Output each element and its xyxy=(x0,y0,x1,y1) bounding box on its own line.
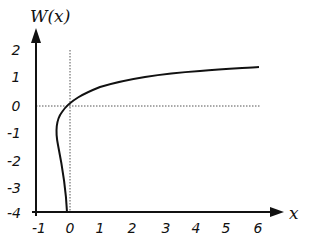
x-tick: 3 xyxy=(162,220,171,236)
x-tick: 0 xyxy=(66,220,75,236)
x-tick: -1 xyxy=(32,220,46,236)
y-tick: -3 xyxy=(7,180,21,196)
x-axis-label: x xyxy=(289,203,299,223)
y-tick: -1 xyxy=(7,125,21,141)
lambert-w-curve xyxy=(56,67,259,212)
x-tick: 2 xyxy=(128,220,137,236)
x-tick: 4 xyxy=(192,220,201,236)
y-tick: 1 xyxy=(12,69,21,85)
x-axis-arrow-icon xyxy=(270,207,284,217)
y-axis-arrow-icon xyxy=(31,28,41,43)
x-tick: 6 xyxy=(254,220,263,236)
y-tick: -4 xyxy=(7,205,21,221)
y-axis-label: W(x) xyxy=(30,6,70,26)
x-tick: 5 xyxy=(222,220,231,236)
x-tick: 1 xyxy=(96,220,105,236)
y-tick: 2 xyxy=(12,42,21,58)
y-tick: -2 xyxy=(7,153,21,169)
y-tick: 0 xyxy=(12,98,21,114)
lambert-w-plot: W(x) x 2 1 0 -1 -2 -3 -4 -1 0 1 2 3 4 5 … xyxy=(0,0,312,246)
